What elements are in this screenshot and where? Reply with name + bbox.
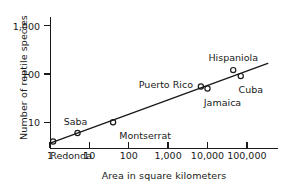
data-point-label: Jamaica — [204, 97, 241, 108]
species-area-chart: Number of reptile species Area in square… — [0, 0, 285, 188]
data-point-marker — [238, 74, 243, 79]
data-point-label: Cuba — [238, 84, 263, 95]
data-point-marker — [231, 67, 236, 72]
data-point-label: Redonda — [50, 149, 92, 160]
data-point-label: Montserrat — [119, 130, 171, 141]
data-point-marker — [205, 86, 210, 91]
data-point-label: Puerto Rico — [139, 79, 193, 90]
data-point-label: Hispaniola — [208, 52, 258, 63]
data-point-label: Saba — [64, 116, 88, 127]
